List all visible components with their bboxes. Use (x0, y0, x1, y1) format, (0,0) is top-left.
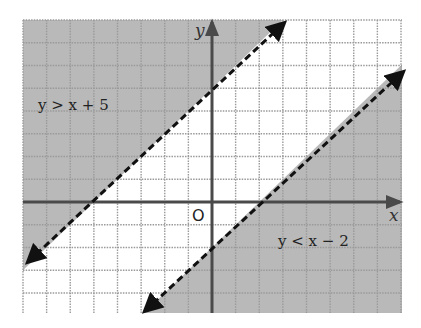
upper-region-label: y > x + 5 (37, 96, 109, 114)
origin-label: O (192, 206, 205, 225)
lower-region-label: y < x − 2 (277, 232, 349, 250)
x-axis-label: x (389, 205, 399, 225)
y-axis-label: y (194, 20, 205, 40)
inequality-graph: y > x + 5 y < x − 2 y x O (0, 0, 421, 328)
